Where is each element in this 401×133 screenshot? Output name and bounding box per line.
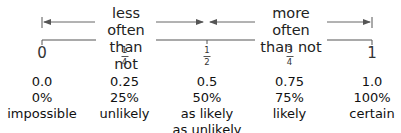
denominator: 2 bbox=[204, 58, 209, 67]
decimal: 0.5 bbox=[162, 74, 252, 90]
description: unlikely bbox=[80, 106, 170, 122]
numerator: 1 bbox=[122, 46, 127, 55]
numerator: 3 bbox=[287, 46, 292, 55]
tick-label-1: 1 bbox=[367, 44, 377, 62]
decimal: 0.0 bbox=[0, 74, 87, 90]
decimal: 1.0 bbox=[327, 74, 401, 90]
decimal: 0.75 bbox=[245, 74, 335, 90]
tick-label-three-quarters: 34 bbox=[286, 46, 293, 67]
percent: 0% bbox=[0, 90, 87, 106]
percent: 25% bbox=[80, 90, 170, 106]
description-line2: as unlikely bbox=[162, 122, 252, 133]
tick-label-quarter: 14 bbox=[121, 46, 128, 67]
description: as likely bbox=[162, 106, 252, 122]
denominator: 4 bbox=[122, 58, 127, 67]
description: likely bbox=[245, 106, 335, 122]
percent: 75% bbox=[245, 90, 335, 106]
percent: 50% bbox=[162, 90, 252, 106]
tick-label-half: 12 bbox=[204, 46, 211, 67]
tick-label-0: 0 bbox=[37, 44, 47, 62]
description: impossible bbox=[0, 106, 87, 122]
percent: 100% bbox=[327, 90, 401, 106]
description: certain bbox=[327, 106, 401, 122]
desc-unlikely: 0.25 25% unlikely bbox=[80, 74, 170, 122]
desc-certain: 1.0 100% certain bbox=[327, 74, 401, 122]
desc-impossible: 0.0 0% impossible bbox=[0, 74, 87, 122]
desc-likely: 0.75 75% likely bbox=[245, 74, 335, 122]
desc-as-likely: 0.5 50% as likely as unlikely bbox=[162, 74, 252, 133]
probability-number-line: less often than not more often than not … bbox=[0, 0, 401, 133]
numerator: 1 bbox=[204, 46, 209, 55]
region-less-line1: less often bbox=[99, 5, 153, 39]
denominator: 4 bbox=[287, 58, 292, 67]
decimal: 0.25 bbox=[80, 74, 170, 90]
region-more-line1: more often bbox=[258, 5, 324, 39]
